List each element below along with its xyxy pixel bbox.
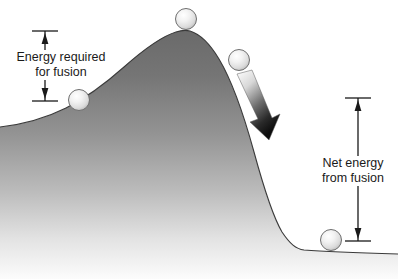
energy-curve-graphic: [0, 0, 398, 279]
transition-state-ball: [176, 9, 197, 30]
net-energy-label: Net energy from fusion: [309, 156, 397, 185]
activation-down-arrowhead: [42, 88, 49, 99]
net-energy-label-line1: Net energy: [309, 156, 397, 171]
net-energy-label-line2: from fusion: [309, 171, 397, 186]
energy-required-label-line1: Energy required: [6, 50, 116, 65]
reactant-ball: [69, 90, 90, 111]
net-energy-up-arrowhead: [355, 100, 362, 111]
energy-required-label: Energy required for fusion: [6, 50, 116, 79]
energy-required-label-line2: for fusion: [6, 65, 116, 80]
energy-diagram: Energy required for fusion Net energy fr…: [0, 0, 398, 279]
product-ball: [321, 230, 342, 251]
descending-ball: [229, 50, 250, 71]
activation-up-arrowhead: [42, 33, 49, 44]
net-energy-down-arrowhead: [355, 228, 362, 239]
